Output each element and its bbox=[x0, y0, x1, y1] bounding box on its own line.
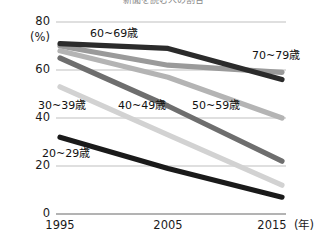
series-label-60-69: 60~69歳 bbox=[90, 28, 138, 39]
series-label-70-79: 70~79歳 bbox=[252, 50, 300, 61]
line-chart: 新聞を読む人の割合 80 (%) 60 40 20 0 1995 2005 20… bbox=[0, 0, 327, 247]
y-axis-tick-60: 60 bbox=[20, 64, 50, 76]
y-axis-tick-80: 80 bbox=[20, 16, 50, 28]
y-axis-tick-20: 20 bbox=[20, 160, 50, 172]
y-axis-unit-label: (%) bbox=[8, 32, 50, 44]
series-label-40-49: 40~49歳 bbox=[118, 100, 166, 111]
x-axis-unit-label: (年) bbox=[294, 220, 314, 232]
series-label-30-39: 30~39歳 bbox=[38, 100, 86, 111]
series-label-20-29: 20~29歳 bbox=[42, 148, 90, 159]
series-label-50-59: 50~59歳 bbox=[192, 100, 240, 111]
series-lines bbox=[60, 44, 282, 198]
x-axis-tick-1995: 1995 bbox=[36, 220, 84, 232]
y-axis-tick-40: 40 bbox=[20, 112, 50, 124]
x-axis-tick-2015: 2015 bbox=[248, 220, 296, 232]
x-axis-tick-2005: 2005 bbox=[144, 220, 192, 232]
